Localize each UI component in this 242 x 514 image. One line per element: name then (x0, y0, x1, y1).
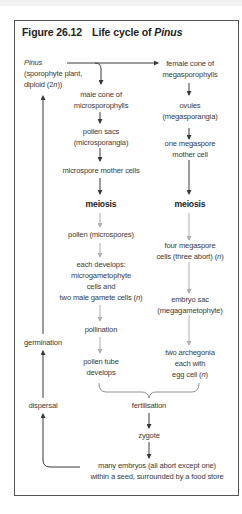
arrow-pinus-to-male-cone (95, 63, 101, 84)
node-pinus-name: Pinus (24, 58, 42, 67)
node-archegonia-line2: each with (175, 359, 206, 368)
node-fertilisation-text: fertilisation (132, 401, 166, 410)
node-zygote: zygote (118, 430, 180, 441)
node-meiosis-right-text: meiosis (175, 199, 206, 209)
node-archegonia: two archegonia each with egg cell (n) (158, 347, 222, 380)
node-megaspore-mother-line2: mother cell (172, 150, 208, 159)
fertilisation-brace (99, 383, 199, 398)
node-pollen-tube: pollen tube develops (70, 356, 132, 378)
node-megaspore-mother-cell: one megaspore mother cell (158, 138, 222, 160)
node-pollen-tube-line1: pollen tube (83, 357, 119, 366)
node-many-embryos-line2: within a seed, surrounded by a food stor… (90, 472, 223, 481)
node-megaspore-mother-line1: one megaspore (165, 139, 216, 148)
node-each-develops-line4: two male gamete cells ( (60, 293, 136, 302)
node-pollen-sacs-line1: pollen sacs (83, 127, 119, 136)
node-each-develops-line4-close: ) (140, 293, 142, 302)
node-zygote-text: zygote (138, 431, 159, 440)
node-female-cone-line2: megasporophylls (162, 70, 217, 79)
node-four-megaspore-line1: four megaspore (164, 241, 215, 250)
node-germination: germination (18, 337, 68, 348)
node-male-cone-line1: male cone of (80, 90, 122, 99)
node-ovules-line2: (megasporangia) (162, 112, 217, 121)
node-four-megaspore: four megaspore cells (three abort) (n) (148, 240, 232, 262)
node-each-develops-line1: each develops: (77, 260, 126, 269)
node-many-embryos: many embryos (all abort except one) with… (82, 460, 232, 482)
node-four-megaspore-line2: cells (three abort) ( (156, 252, 217, 261)
node-microspore-mother-text: microspore mother cells (62, 166, 139, 175)
node-female-cone: female cone of megasporophylls (158, 58, 222, 80)
node-microspore-mother-cells: microspore mother cells (50, 165, 152, 176)
node-pinus-line3: diploid (2 (24, 80, 53, 89)
node-pinus-line3-close: )) (57, 80, 62, 89)
node-many-embryos-line1: many embryos (all abort except one) (98, 461, 216, 470)
node-female-cone-line1: female cone of (166, 59, 214, 68)
node-each-develops: each develops: microgametophyte cells an… (45, 259, 157, 303)
node-germination-text: germination (24, 338, 62, 347)
node-four-megaspore-line2-close: ) (221, 252, 223, 261)
node-pollen-tube-line2: develops (86, 368, 115, 377)
node-embryo-sac-line1: embryo sac (171, 295, 209, 304)
node-pollination: pollination (70, 324, 132, 335)
node-embryo-sac-line2: (megagametophyte) (157, 306, 222, 315)
node-pollination-text: pollination (85, 325, 118, 334)
node-ovules-line1: ovules (179, 101, 200, 110)
node-pollen: pollen (microspores) (55, 229, 147, 240)
node-embryo-sac: embryo sac (megagametophyte) (152, 294, 228, 316)
node-pollen-sacs: pollen sacs (microsporangia) (70, 126, 132, 148)
node-meiosis-left: meiosis (70, 199, 132, 210)
node-ovules: ovules (megasporangia) (158, 100, 222, 122)
node-fertilisation: fertilisation (118, 400, 180, 411)
node-male-cone-line2: microsporophylls (74, 101, 129, 110)
node-pollen-sacs-line2: (microsporangia) (74, 138, 129, 147)
node-dispersal-text: dispersal (28, 401, 57, 410)
node-archegonia-line3-close: ) (206, 370, 208, 379)
node-pinus: Pinus (sporophyte plant, diploid (2n)) (24, 57, 82, 90)
node-pollen-text: pollen (microspores) (68, 230, 134, 239)
node-dispersal: dispersal (18, 400, 68, 411)
node-pinus-line2: (sporophyte plant, (24, 69, 82, 78)
node-male-cone: male cone of microsporophylls (70, 89, 132, 111)
node-archegonia-line3: egg cell ( (172, 370, 201, 379)
node-meiosis-right: meiosis (158, 199, 222, 210)
node-each-develops-line2: microgametophyte (71, 271, 131, 280)
node-meiosis-left-text: meiosis (86, 199, 117, 209)
node-archegonia-line1: two archegonia (165, 348, 214, 357)
node-each-develops-line3: cells and (87, 282, 116, 291)
arrow-embryos-to-dispersal (43, 414, 80, 467)
